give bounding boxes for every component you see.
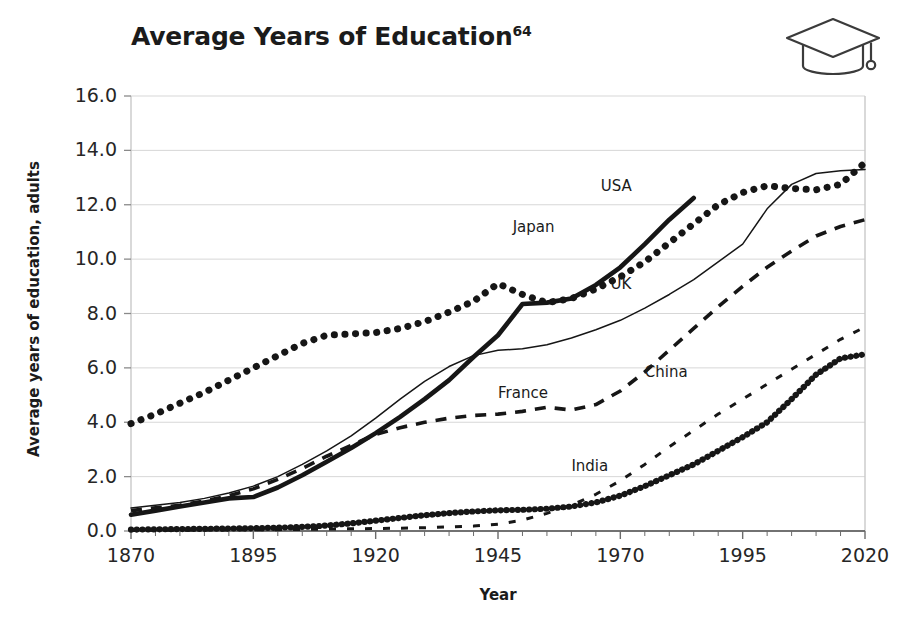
y-axis-tick-label: 12.0 [43, 193, 117, 215]
y-axis-tick-label: 4.0 [43, 410, 117, 432]
series-label-france: France [498, 384, 548, 402]
x-axis-tick-label: 1970 [575, 544, 665, 566]
series-line-japan [131, 198, 694, 515]
y-axis-tick-label: 16.0 [43, 84, 117, 106]
series-label-uk: UK [611, 275, 632, 293]
x-axis-tick-label: 1920 [331, 544, 421, 566]
y-axis-tick-label: 14.0 [43, 138, 117, 160]
plot-canvas [0, 0, 899, 627]
x-axis-tick-label: 1870 [86, 544, 176, 566]
y-axis-tick-label: 6.0 [43, 356, 117, 378]
series-line-india [131, 354, 865, 529]
y-axis-tick-label: 10.0 [43, 247, 117, 269]
y-axis-tick-label: 8.0 [43, 302, 117, 324]
series-label-japan: Japan [513, 218, 555, 236]
y-axis-tick-label: 2.0 [43, 465, 117, 487]
y-axis-tick-label: 0.0 [43, 519, 117, 541]
series-line-france [131, 220, 865, 511]
x-axis-tick-label: 1995 [698, 544, 788, 566]
x-axis-tick-label: 2020 [820, 544, 899, 566]
x-axis-tick-label: 1945 [453, 544, 543, 566]
series-label-usa: USA [601, 177, 632, 195]
series-line-uk [131, 169, 865, 507]
x-axis-tick-label: 1895 [208, 544, 298, 566]
series-label-china: China [645, 363, 688, 381]
chart-figure: Average Years of Education64 Average yea… [0, 0, 899, 627]
series-label-india: India [571, 457, 608, 475]
